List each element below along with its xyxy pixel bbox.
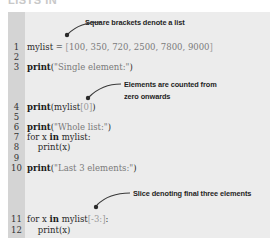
code-line: print(x) [27,225,70,235]
code-string: "Single element:" [54,62,129,72]
section-heading-cutoff: LISTS IN [8,0,57,6]
code-token: : [106,214,109,224]
code-line: print("Single element:") [27,62,133,72]
code-token: ) [92,102,95,112]
code-string: 100, 350, 720, 2500, 7800, 9000 [69,42,210,52]
code-token: for x [27,214,50,224]
line-number: 2 [8,52,25,62]
pointer-dot-slice [94,205,98,209]
code-line: print(mylist[0]) [27,102,96,112]
code-line: for x in mylist[-3:]: [27,214,108,224]
pointer-slice [97,193,130,205]
line-number: 5 [8,112,25,122]
code-line: for x in mylist: [27,132,91,142]
pointer-dot-counted-from-zero [86,96,90,100]
code-string: "Whole list:" [54,122,108,132]
code-keyword: in [50,214,59,224]
code-line: print(x) [27,142,70,152]
code-bracket: ] [210,42,213,52]
code-keyword: print [27,122,51,132]
line-number: 8 [8,142,25,152]
code-token: mylist = [27,42,66,52]
line-number: 12 [8,225,25,235]
code-keyword: print [27,62,51,72]
code-token: mylist [59,214,88,224]
line-number: 10 [8,163,25,173]
code-bracket: [0] [80,102,92,112]
code-token: ) [133,163,136,173]
pointer-dot-square-brackets [65,33,69,37]
code-string: "Last 3 elements:" [54,163,133,173]
pointer-square-brackets [68,22,101,34]
line-number: 3 [8,62,25,72]
code-token: for x [27,132,50,142]
code-panel: Square brackets denote a list Elements a… [8,12,270,238]
code-keyword: print [27,163,51,173]
line-number: 4 [8,102,25,112]
line-number: 9 [8,153,25,163]
code-keyword: in [50,132,59,142]
code-token: ) [108,122,111,132]
code-keyword: print [27,102,51,112]
code-line: mylist = [100, 350, 720, 2500, 7800, 900… [27,42,213,52]
code-line: print("Last 3 elements:") [27,163,137,173]
code-bracket: [-3:] [88,214,106,224]
line-number: 1 [8,42,25,52]
line-number: 7 [8,132,25,142]
code-line: print("Whole list:") [27,122,111,132]
line-number: 6 [8,122,25,132]
code-token: print(x) [27,142,70,152]
code-token: mylist: [59,132,91,142]
code-token: print(x) [27,225,70,235]
pointer-counted-from-zero [89,84,121,97]
code-token: (mylist [51,102,80,112]
code-token: ) [129,62,132,72]
line-number: 11 [8,214,25,224]
